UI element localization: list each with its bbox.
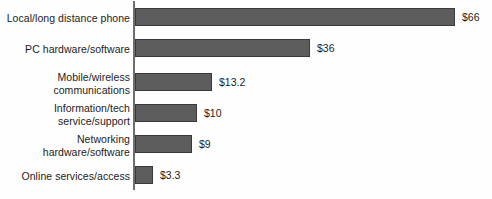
value-label: $10 — [204, 104, 222, 122]
category-label: Networking hardware/software — [0, 133, 130, 158]
value-label: $3.3 — [160, 166, 180, 184]
bar — [135, 73, 212, 91]
bar — [135, 39, 310, 57]
category-label: Information/tech service/support — [0, 102, 130, 127]
bar — [135, 8, 455, 26]
category-label: PC hardware/software — [0, 43, 130, 56]
plot-area: Local/long distance phone $66 PC hardwar… — [0, 0, 492, 199]
bar — [135, 135, 192, 153]
category-label: Online services/access — [0, 170, 130, 183]
category-label: Mobile/wireless communications — [0, 71, 130, 96]
value-label: $66 — [462, 8, 480, 26]
bar-chart: Local/long distance phone $66 PC hardwar… — [0, 0, 492, 199]
bar — [135, 104, 197, 122]
y-axis-line — [133, 1, 135, 190]
category-label: Local/long distance phone — [0, 12, 130, 25]
value-label: $36 — [317, 39, 335, 57]
bar — [135, 166, 153, 184]
value-label: $9 — [199, 135, 211, 153]
value-label: $13.2 — [219, 73, 245, 91]
